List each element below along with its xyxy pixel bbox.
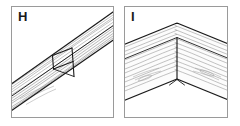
panel-i: I [124,6,228,118]
panel-i-label: I [131,10,135,23]
panel-h-drawing [12,7,114,118]
left-beam [125,23,179,105]
panel-i-drawing [125,7,228,118]
beam-body-fill [12,7,114,118]
right-beam [175,23,228,105]
figure-container: H [0,0,240,126]
panel-h: H [11,6,114,118]
panel-h-label: H [18,10,27,23]
